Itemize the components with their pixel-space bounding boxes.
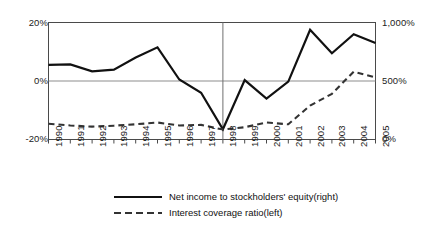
legend-swatch-solid-line	[114, 192, 162, 202]
x-axis-tick-label-1998: 1998	[227, 125, 238, 147]
legend-item-interest-coverage: Interest coverage ratio(left)	[114, 208, 283, 218]
x-axis-tick-label-2002: 2002	[315, 125, 326, 147]
x-axis-tick-label-2001: 2001	[293, 125, 304, 147]
x-axis-tick-label-1999: 1999	[249, 125, 260, 147]
x-axis-tick-label-2003: 2003	[336, 125, 347, 147]
x-axis-tick-label-2000: 2000	[271, 125, 282, 147]
x-axis-tick-label-1991: 1991	[75, 125, 86, 147]
x-axis-tick-label-2004: 2004	[358, 125, 369, 147]
legend-label-interest-coverage: Interest coverage ratio(left)	[169, 208, 283, 218]
legend-label-net-income: Net income to stockholders' equity(right…	[169, 192, 338, 202]
legend-swatch-dashed-line	[114, 208, 162, 218]
x-axis-tick-label-1993: 1993	[118, 125, 129, 147]
x-axis-tick-label-1996: 1996	[184, 125, 195, 147]
x-axis-tick-label-1990: 1990	[53, 125, 64, 147]
x-axis-tick-label-1994: 1994	[140, 125, 151, 147]
x-axis-tick-label-1995: 1995	[162, 125, 173, 147]
chart-container: 20% 0% -20% 1,000% 500% 0% 1990199119921…	[0, 0, 434, 230]
legend-item-net-income: Net income to stockholders' equity(right…	[114, 192, 338, 202]
x-axis-tick-label-2005: 2005	[380, 125, 391, 147]
x-axis-tick-label-1997: 1997	[206, 125, 217, 147]
x-axis-tick-label-1992: 1992	[97, 125, 108, 147]
